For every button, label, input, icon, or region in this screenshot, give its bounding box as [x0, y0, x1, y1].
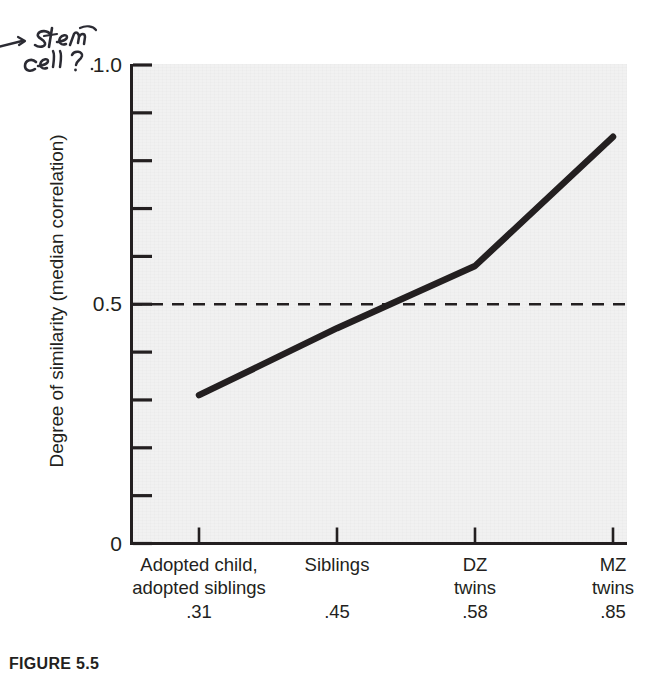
x-category-line-1: MZ [600, 554, 627, 575]
y-axis-tick-labels: 1.0 0.5 0 [58, 0, 122, 600]
data-series-line [199, 137, 613, 395]
x-category-line-2: twins [454, 577, 496, 598]
figure-5-5: Degree of similarity (median correlation… [0, 0, 654, 683]
x-category-line-2: twins [592, 577, 634, 598]
plot-area [130, 64, 627, 545]
x-category-value: .85 [498, 600, 654, 623]
y-tick-label-0: 0 [62, 533, 122, 554]
y-tick-label-1: 1.0 [62, 54, 122, 75]
x-axis-category-labels: Adopted child, adopted siblings .31 Sibl… [130, 553, 627, 643]
y-tick-label-0point5: 0.5 [62, 293, 122, 314]
x-category-mz-twins: MZ twins .85 [498, 553, 654, 623]
chart-canvas [130, 64, 627, 545]
figure-caption: FIGURE 5.5 [9, 655, 99, 673]
x-category-line-1: DZ [463, 554, 488, 575]
